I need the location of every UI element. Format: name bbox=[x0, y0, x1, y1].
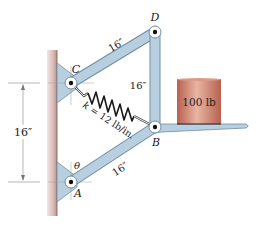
label-c: C bbox=[72, 63, 81, 76]
pin-b bbox=[149, 121, 161, 133]
angle-theta-label: θ bbox=[74, 160, 80, 171]
member-db-length: 16″ bbox=[130, 80, 147, 91]
weight-block: 100 lb bbox=[177, 78, 221, 124]
wall bbox=[47, 50, 57, 216]
weight-label: 100 lb bbox=[182, 96, 216, 108]
member-ab-length: 16″ bbox=[110, 160, 130, 178]
label-d: D bbox=[150, 11, 160, 24]
label-b: B bbox=[151, 136, 160, 149]
height-dimension: 16″ bbox=[8, 83, 40, 182]
pin-c bbox=[65, 77, 77, 89]
spring-constant-label: k = 12 lb/in. bbox=[81, 99, 137, 141]
mechanism-diagram: 16″ 100 lb bbox=[0, 0, 273, 231]
label-a: A bbox=[73, 187, 82, 200]
pin-d bbox=[149, 26, 161, 38]
height-dimension-label: 16″ bbox=[14, 126, 32, 139]
